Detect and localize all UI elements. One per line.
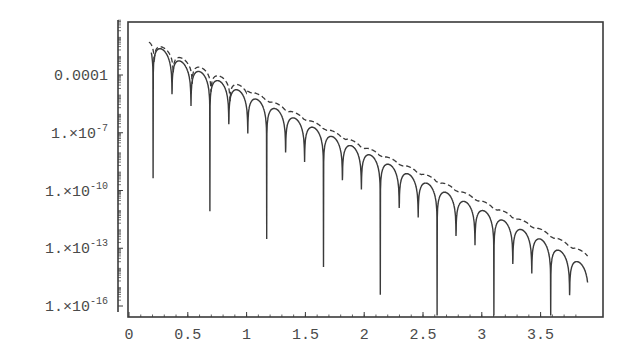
oscillating-solution-curve <box>151 49 587 316</box>
x-tick-label: 3 <box>477 327 486 344</box>
x-tick-label: 3.5 <box>527 327 554 344</box>
x-tick-label: 2 <box>360 327 369 344</box>
x-tick-label: 0 <box>124 327 133 344</box>
y-tick-label: 1.×10-16 <box>45 296 108 316</box>
x-tick-label: 0.5 <box>174 327 201 344</box>
y-tick-label: 0.0001 <box>54 68 108 85</box>
dashed-bound-curve <box>149 42 588 256</box>
x-tick-label: 1.5 <box>292 327 319 344</box>
x-tick-label: 2.5 <box>409 327 436 344</box>
x-tick-label: 1 <box>242 327 251 344</box>
y-tick-label: 1.×10-10 <box>45 181 108 201</box>
plot-area <box>149 42 588 316</box>
y-axis-labels: 0.00011.×10-71.×10-101.×10-131.×10-16 <box>45 68 108 316</box>
log-plot: 00.511.522.533.5 0.00011.×10-71.×10-101.… <box>0 0 618 364</box>
y-tick-label: 1.×10-7 <box>51 123 108 143</box>
x-axis-labels: 00.511.522.533.5 <box>124 327 554 344</box>
y-tick-label: 1.×10-13 <box>45 238 108 258</box>
